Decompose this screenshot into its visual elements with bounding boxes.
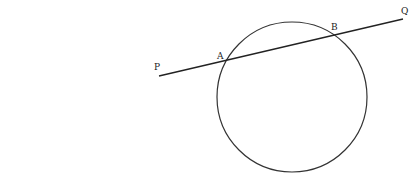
label-a: A: [216, 51, 224, 61]
line-pq: [159, 19, 403, 76]
label-q: Q: [401, 6, 408, 16]
label-b: B: [331, 22, 338, 32]
diagram-canvas: P Q A B: [0, 0, 413, 185]
label-p: P: [154, 62, 160, 72]
